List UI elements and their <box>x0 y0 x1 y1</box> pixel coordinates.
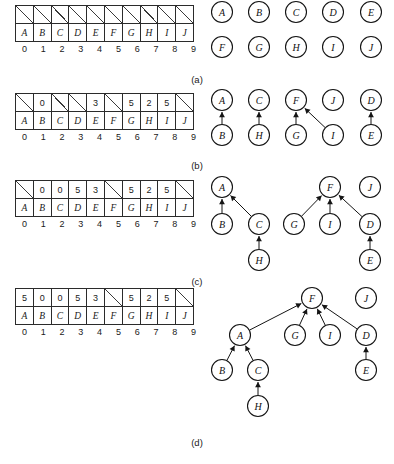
node-label: H <box>254 130 263 141</box>
node-E: E <box>361 125 382 146</box>
node-label: A <box>236 330 244 341</box>
node-J: J <box>356 288 377 309</box>
node-A: A <box>212 90 233 111</box>
node-A: A <box>212 2 233 23</box>
node-F: F <box>212 37 233 58</box>
node-C: C <box>249 90 270 111</box>
node-label: B <box>256 7 262 18</box>
node-label: D <box>365 219 374 230</box>
node-label: B <box>219 219 225 230</box>
node-B: B <box>212 125 233 146</box>
node-label: E <box>366 255 373 266</box>
node-label: J <box>331 95 336 106</box>
node-G: G <box>284 214 305 235</box>
node-F: F <box>286 90 307 111</box>
node-label: C <box>256 219 263 230</box>
node-label: F <box>218 42 226 53</box>
node-label: A <box>218 7 226 18</box>
node-label: I <box>327 330 332 341</box>
node-label: B <box>219 365 225 376</box>
forest-graph-panel-d: FJAGIDBCEH <box>0 280 394 430</box>
node-label: A <box>218 182 226 193</box>
node-label: J <box>369 42 374 53</box>
figure-root: ABCDEFGHIJ0123456789ABCDEFGHIJ(a)03525AB… <box>0 0 394 464</box>
arrowhead-H-to-C <box>256 236 262 241</box>
node-F: F <box>320 177 341 198</box>
node-G: G <box>249 37 270 58</box>
node-C: C <box>248 360 269 381</box>
node-label: I <box>330 42 335 53</box>
node-label: F <box>308 293 316 304</box>
node-D: D <box>361 90 382 111</box>
node-label: D <box>328 7 337 18</box>
node-I: I <box>323 37 344 58</box>
arrowhead-E-to-D <box>363 347 369 352</box>
node-D: D <box>323 2 344 23</box>
node-label: E <box>362 365 369 376</box>
node-label: F <box>292 95 300 106</box>
arrowhead-H-to-C <box>256 112 262 117</box>
arrowhead-G-to-F <box>293 112 299 117</box>
arrowhead-B-to-A <box>219 112 225 117</box>
node-H: H <box>248 396 269 417</box>
node-H: H <box>286 37 307 58</box>
node-G: G <box>286 125 307 146</box>
node-D: D <box>360 214 381 235</box>
node-label: C <box>256 95 263 106</box>
node-label: H <box>291 42 300 53</box>
node-C: C <box>286 2 307 23</box>
arrowhead-E-to-D <box>367 236 373 241</box>
node-label: D <box>361 330 370 341</box>
node-G: G <box>285 325 306 346</box>
node-label: H <box>254 255 263 266</box>
node-J: J <box>360 177 381 198</box>
node-label: G <box>290 219 297 230</box>
panel-caption-d: (d) <box>0 437 394 448</box>
node-label: G <box>255 42 262 53</box>
node-F: F <box>302 288 323 309</box>
node-A: A <box>212 177 233 198</box>
node-J: J <box>323 90 344 111</box>
node-label: B <box>219 130 225 141</box>
arrowhead-B-to-A <box>219 199 225 204</box>
arrowhead-I-to-F <box>327 199 333 204</box>
arrowhead-H-to-C <box>255 382 261 387</box>
node-E: E <box>360 250 381 271</box>
node-label: I <box>327 219 332 230</box>
node-label: G <box>292 130 299 141</box>
node-label: E <box>367 130 374 141</box>
arrowhead-E-to-D <box>368 112 374 117</box>
node-D: D <box>356 325 377 346</box>
node-label: J <box>364 293 369 304</box>
node-E: E <box>361 2 382 23</box>
node-label: J <box>368 182 373 193</box>
node-A: A <box>230 325 251 346</box>
node-C: C <box>249 214 270 235</box>
node-I: I <box>320 325 341 346</box>
node-H: H <box>249 250 270 271</box>
node-B: B <box>249 2 270 23</box>
node-label: C <box>293 7 300 18</box>
node-J: J <box>361 37 382 58</box>
panel-caption-b: (b) <box>0 160 394 171</box>
node-E: E <box>356 360 377 381</box>
node-label: G <box>291 330 298 341</box>
node-label: A <box>218 95 226 106</box>
node-label: E <box>367 7 374 18</box>
node-label: C <box>255 365 262 376</box>
node-B: B <box>212 360 233 381</box>
node-label: D <box>366 95 375 106</box>
node-H: H <box>249 125 270 146</box>
node-B: B <box>212 214 233 235</box>
node-label: H <box>253 401 262 412</box>
panel-caption-a: (a) <box>0 74 394 85</box>
node-label: F <box>326 182 334 193</box>
node-I: I <box>323 125 344 146</box>
node-label: I <box>330 130 335 141</box>
node-I: I <box>320 214 341 235</box>
arrowhead-D-to-F <box>322 305 328 310</box>
